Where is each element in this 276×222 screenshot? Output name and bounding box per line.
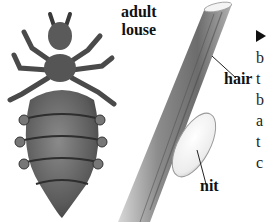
text-line: b — [256, 47, 276, 68]
adult-louse-label-line1: adult — [121, 3, 157, 21]
text-line: b — [256, 89, 276, 110]
louse-head — [44, 14, 76, 82]
text-line: a — [256, 110, 276, 131]
hair-label: hair — [224, 70, 252, 88]
text-line: t — [256, 131, 276, 152]
adult-louse-label: adult louse — [121, 3, 157, 39]
adult-louse-label-line2: louse — [121, 21, 157, 39]
text-line: c — [256, 152, 276, 173]
louse-abdomen — [15, 90, 107, 218]
nit-label: nit — [200, 177, 219, 195]
truncated-body-text: b t b a t c — [256, 26, 276, 173]
right-arrow-icon — [256, 30, 266, 42]
text-line: t — [256, 68, 276, 89]
